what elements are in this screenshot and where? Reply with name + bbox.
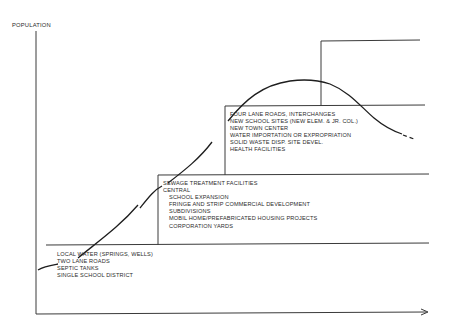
y-axis-label: POPULATION [12,22,51,28]
x-axis [36,312,426,314]
stage-2-line: FRINGE AND STRIP COMMERCIAL DEVELOPMENT [163,201,318,208]
stage-2-line: SUBDIVISIONS [163,208,318,215]
stage-1-line: SEPTIC TANKS [57,265,153,272]
stage-2-threshold-line [158,174,429,175]
stage-1-threshold-line [46,243,429,245]
stage-3-line: SOLID WASTE DISP. SITE DEVEL. [230,139,358,146]
stage-2-subheading: CENTRAL [163,187,318,194]
stage-3-line: NEW SCHOOL SITES (NEW ELEM. & JR. COL.) [230,118,358,125]
stage-2-line: CORPORATION YARDS [163,223,318,230]
stage-1-line: LOCAL WATER (SPRINGS, WELLS) [57,251,153,258]
stage-2-line: MOBIL HOME/PREFABRICATED HOUSING PROJECT… [163,215,318,222]
population-projection-dashed [403,135,414,139]
stage-4-threshold-line [321,40,420,41]
stage-1-line: TWO LANE ROADS [57,258,153,265]
stage-3-line: HEALTH FACILITIES [230,146,358,153]
stage-3-label: FOUR LANE ROADS, INTERCHANGES NEW SCHOOL… [230,111,358,154]
stage-3-line: NEW TOWN CENTER [230,125,358,132]
stage-2-label: SEWAGE TREATMENT FACILITIES CENTRAL SCHO… [163,180,318,230]
population-threshold-diagram [0,0,450,331]
stage-3-line: WATER IMPORTATION OR EXPROPRIATION [230,132,358,139]
stage-3-threshold-line [225,105,425,106]
stage-2-heading: SEWAGE TREATMENT FACILITIES [163,180,318,187]
stage-3-line: FOUR LANE ROADS, INTERCHANGES [230,111,358,118]
stage-1-label: LOCAL WATER (SPRINGS, WELLS) TWO LANE RO… [57,251,153,279]
stage-2-line: SCHOOL EXPANSION [163,194,318,201]
stage-1-line: SINGLE SCHOOL DISTRICT [57,272,153,279]
